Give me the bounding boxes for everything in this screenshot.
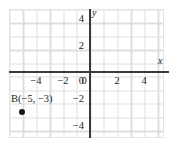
x-tick-label-2: 2 (114, 76, 119, 87)
y-tick-label-4: 4 (79, 14, 87, 25)
grid-border-right (163, 9, 164, 138)
y-tick-label-neg4: −4 (73, 121, 87, 132)
grid-lines (9, 9, 164, 138)
grid-border-left (9, 9, 10, 138)
y-axis-line (89, 9, 91, 138)
point-b-marker (19, 109, 25, 115)
y-axis-label: y (92, 8, 96, 18)
point-b-label: B(−5, −3) (11, 94, 53, 105)
x-axis-label: x (158, 56, 162, 66)
y-tick-label-zero: 0 (79, 76, 87, 87)
x-tick-label-4: 4 (141, 76, 146, 87)
grid-border-top (9, 9, 164, 10)
y-tick-label-neg2: −2 (73, 94, 87, 105)
y-tick-label-2: 2 (79, 41, 87, 52)
grid-border-bottom (9, 137, 164, 138)
x-tick-label-neg4: −4 (30, 76, 41, 87)
coordinate-plane-figure: x y −4 −2 0 2 4 4 2 0 −2 −4 B(−5, −3) (0, 0, 176, 152)
x-tick-label-neg2: −2 (57, 76, 68, 87)
